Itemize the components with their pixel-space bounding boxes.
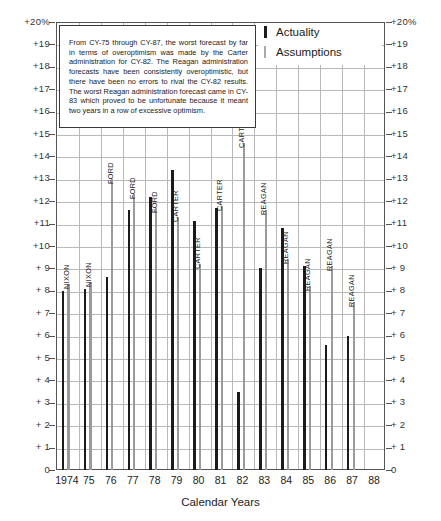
- gridline-vertical: [364, 23, 365, 469]
- bar-actuality: [303, 266, 306, 470]
- y-tick-label-right: +15: [391, 129, 437, 139]
- y-tick-label-left: + 7: [4, 308, 50, 318]
- annotation-box: From CY-75 through CY-87, the worst fore…: [59, 25, 256, 128]
- y-tick-label-left: + 4: [4, 375, 50, 385]
- y-tick-label-right: +20%: [391, 17, 437, 27]
- gridline-vertical: [320, 23, 321, 469]
- gridline-vertical: [276, 23, 277, 469]
- bar-actuality: [259, 268, 262, 470]
- y-tick-label-right: + 4: [391, 375, 437, 385]
- bar-assumptions: [155, 208, 157, 470]
- bar-president-label: REAGAN: [282, 232, 290, 265]
- y-tick-label-right: +11: [391, 218, 437, 228]
- y-tick-label-left: +19: [4, 39, 50, 49]
- bar-assumptions: [221, 206, 223, 470]
- legend-swatch-assumptions-icon: [264, 46, 266, 58]
- y-tick-label-left: +11: [4, 218, 50, 228]
- legend-label-assumptions: Assumptions: [276, 44, 342, 60]
- gridline-vertical: [342, 23, 343, 469]
- bar-actuality: [149, 197, 152, 470]
- y-tick-label-left: + 9: [4, 263, 50, 273]
- y-tick-label-right: +14: [391, 151, 437, 161]
- bar-president-label: FORD: [129, 178, 137, 200]
- legend: Actuality Assumptions: [258, 23, 382, 65]
- bar-president-label: REAGAN: [348, 274, 356, 307]
- annotation-text: From CY-75 through CY-87, the worst fore…: [69, 38, 248, 116]
- y-tick-label-left: + 3: [4, 397, 50, 407]
- y-tick-label-right: + 9: [391, 263, 437, 273]
- y-tick-label-left: + 6: [4, 330, 50, 340]
- bar-actuality: [215, 208, 218, 470]
- y-tick-label-right: +17: [391, 84, 437, 94]
- bar-president-label: CARTER: [216, 179, 224, 211]
- y-tick-label-left: +20%: [4, 17, 50, 27]
- bar-actuality: [62, 291, 65, 470]
- y-tick-label-left: + 1: [4, 442, 50, 452]
- bar-actuality: [106, 277, 109, 470]
- bar-assumptions: [287, 259, 289, 470]
- y-tick-label-left: +17: [4, 84, 50, 94]
- x-tick-label: 88: [354, 474, 394, 486]
- gridline-vertical: [298, 23, 299, 469]
- y-tick-label-right: +12: [391, 196, 437, 206]
- bar-assumptions: [67, 284, 69, 470]
- x-axis-title: Calendar Years: [0, 496, 441, 508]
- y-tick-label-right: + 8: [391, 285, 437, 295]
- bar-actuality: [325, 345, 328, 470]
- bar-president-label: FORD: [107, 162, 115, 184]
- y-tick-label-left: +16: [4, 106, 50, 116]
- y-tick-label-right: + 7: [391, 308, 437, 318]
- y-tick-label-right: + 5: [391, 353, 437, 363]
- bar-assumptions: [133, 194, 135, 470]
- bar-actuality: [237, 392, 240, 470]
- bar-president-label: NIXON: [85, 262, 93, 287]
- y-tick-label-right: + 6: [391, 330, 437, 340]
- bar-assumptions: [331, 266, 333, 470]
- bar-actuality: [84, 289, 87, 470]
- y-tick-label-right: +13: [391, 173, 437, 183]
- gridline-horizontal: [57, 157, 384, 158]
- y-tick-label-right: +18: [391, 61, 437, 71]
- y-tick-label-left: +15: [4, 129, 50, 139]
- bar-actuality: [347, 336, 350, 470]
- y-tick-label-left: +18: [4, 61, 50, 71]
- bar-assumptions: [309, 286, 311, 470]
- y-tick-label-left: +14: [4, 151, 50, 161]
- legend-label-actuality: Actuality: [276, 24, 319, 40]
- y-tick-label-left: + 5: [4, 353, 50, 363]
- forecast-bar-chart: +20%+20%+19+19+18+18+17+17+16+16+15+15+1…: [0, 0, 441, 521]
- bar-president-label: REAGAN: [304, 259, 312, 292]
- y-tick-label-left: + 2: [4, 420, 50, 430]
- gridline-horizontal: [57, 135, 384, 136]
- bar-president-label: REAGAN: [326, 238, 334, 271]
- bar-actuality: [281, 228, 284, 470]
- y-tick-label-left: +13: [4, 173, 50, 183]
- y-tick-label-right: + 3: [391, 397, 437, 407]
- y-tick-label-left: + 8: [4, 285, 50, 295]
- y-tick-label-left: +10: [4, 241, 50, 251]
- y-tick-label-left: +12: [4, 196, 50, 206]
- bar-president-label: FORD: [151, 191, 159, 213]
- y-tick-label-right: 0: [391, 465, 437, 475]
- bar-assumptions: [199, 264, 201, 470]
- y-tick-label-right: + 2: [391, 420, 437, 430]
- bar-assumptions: [243, 143, 245, 470]
- bar-president-label: REAGAN: [260, 182, 268, 215]
- bar-president-label: NIXON: [63, 264, 71, 289]
- bar-actuality: [128, 210, 131, 470]
- bar-assumptions: [89, 282, 91, 470]
- y-tick-label-right: +19: [391, 39, 437, 49]
- bar-assumptions: [177, 217, 179, 470]
- bar-president-label: CARTER: [172, 190, 180, 222]
- y-tick-label-right: +16: [391, 106, 437, 116]
- y-tick-label-left: 0: [4, 465, 50, 475]
- legend-swatch-actuality-icon: [264, 26, 267, 38]
- bar-assumptions: [353, 302, 355, 470]
- bar-president-label: CARTER: [194, 237, 202, 269]
- bar-assumptions: [111, 179, 113, 470]
- bar-assumptions: [265, 210, 267, 470]
- y-tick-label-right: + 1: [391, 442, 437, 452]
- y-tick-label-right: +10: [391, 241, 437, 251]
